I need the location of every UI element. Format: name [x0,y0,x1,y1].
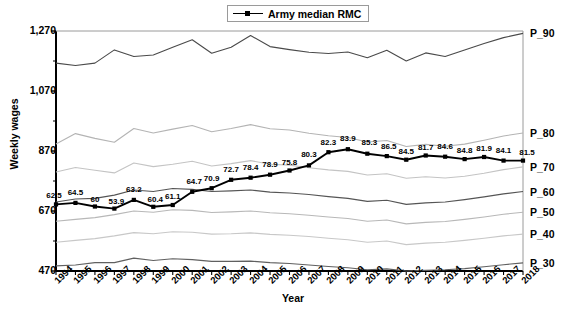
data-label: 84.6 [437,142,453,151]
data-label: 64.5 [68,188,84,197]
data-label: 78.4 [243,163,259,172]
right-axis-label-p_80: P_80 [530,127,555,139]
data-label: 83.9 [340,134,356,143]
data-label: 70.9 [204,174,220,183]
data-label: 60.4 [147,195,163,204]
right-axis-label-p_40: P_40 [530,228,555,240]
data-label: 81.7 [418,143,434,152]
data-label: 85.3 [362,138,378,147]
data-label: 53.9 [109,197,125,206]
data-label: 75.8 [282,158,298,167]
data-label: 84.5 [398,147,414,156]
data-label: 78.9 [262,160,278,169]
legend-line-icon [233,9,263,19]
chart-container: 4706708701,0701,270 Weekly wages Year 19… [0,0,586,313]
data-label: 81.9 [476,144,492,153]
right-axis-label-p_50: P_50 [530,206,555,218]
right-axis-label-p_60: P_60 [530,186,555,198]
data-label: 61.1 [165,192,181,201]
data-label: 82.3 [321,138,337,147]
data-label: 60 [90,195,99,204]
data-label: 63.2 [126,185,142,194]
data-label: 81.5 [519,148,535,157]
right-axis-label-p_90: P_90 [530,27,555,39]
data-label: 84.8 [457,146,473,155]
data-label: 80.3 [301,150,317,159]
data-label: 64.7 [186,177,202,186]
right-axis-label-p_70: P_70 [530,161,555,173]
data-label: 86.5 [381,142,397,151]
legend: Army median RMC [227,5,369,22]
data-label: 62.5 [46,191,62,200]
data-label: 72.7 [223,165,239,174]
data-label: 84.1 [496,146,512,155]
right-axis-label-p_30: P_30 [530,257,555,269]
legend-label-army-median-rmc: Army median RMC [268,8,361,20]
